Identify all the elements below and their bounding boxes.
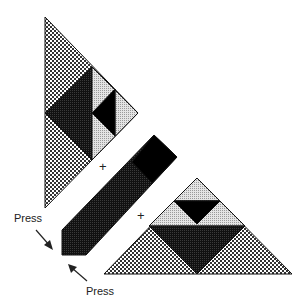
diagram-stage: + + Press Press xyxy=(0,0,303,308)
press-label-bottom: Press xyxy=(86,285,114,297)
press-label-left: Press xyxy=(14,212,42,224)
press-arrow-bottom xyxy=(68,264,87,281)
puzzle-diagram xyxy=(0,0,303,308)
plus-sign-2: + xyxy=(137,208,145,223)
press-arrow-left xyxy=(36,230,53,250)
right-top-light xyxy=(174,178,220,201)
plus-sign-1: + xyxy=(99,159,107,174)
